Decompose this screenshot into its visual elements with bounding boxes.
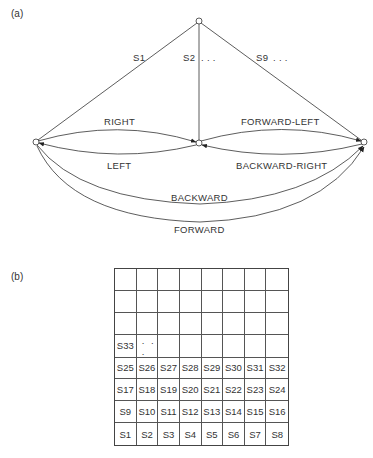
grid-cell: S28 xyxy=(180,358,202,380)
label-s9-dots: . . . xyxy=(273,52,288,63)
grid-cell: S4 xyxy=(180,423,202,445)
grid-cell xyxy=(266,291,288,313)
grid-cell: S17 xyxy=(115,379,137,401)
grid-cell xyxy=(180,269,202,291)
state-transition-diagram: S1 S2 . . . S9 . . . RIGHT LEFT FORWARD-… xyxy=(0,0,373,245)
label-backward: BACKWARD xyxy=(171,192,228,203)
label-backward-right: BACKWARD-RIGHT xyxy=(236,160,327,171)
grid-cell: S14 xyxy=(223,401,245,423)
label-right: RIGHT xyxy=(104,116,135,127)
label-forward-left: FORWARD-LEFT xyxy=(241,116,320,127)
grid-cell xyxy=(115,313,137,335)
grid-cell xyxy=(223,269,245,291)
grid-cell xyxy=(158,313,180,335)
edge-left xyxy=(39,143,196,154)
grid-cell xyxy=(202,291,224,313)
grid-cell: S7 xyxy=(245,423,267,445)
grid-cell: S31 xyxy=(245,358,267,380)
grid-cell xyxy=(180,313,202,335)
grid-cell xyxy=(202,269,224,291)
node-left xyxy=(33,139,39,145)
grid-cell: S20 xyxy=(180,379,202,401)
grid-cell: S3 xyxy=(158,423,180,445)
grid-cell: S15 xyxy=(245,401,267,423)
grid-cell: S23 xyxy=(245,379,267,401)
grid-cell: S22 xyxy=(223,379,245,401)
grid-cell xyxy=(158,291,180,313)
grid-cell: S21 xyxy=(202,379,224,401)
edge-right xyxy=(38,130,196,142)
grid-cell xyxy=(202,313,224,335)
grid-cell: S13 xyxy=(202,401,224,423)
label-s2-dots: . . . xyxy=(201,52,216,63)
grid-cell xyxy=(245,335,267,358)
grid-cell: S24 xyxy=(266,379,288,401)
grid-cell: S18 xyxy=(137,379,159,401)
state-grid: S33. . .S25S26S27S28S29S30S31S32S17S18S1… xyxy=(114,268,289,446)
grid-cell xyxy=(115,291,137,313)
grid-cell: S8 xyxy=(266,423,288,445)
grid-cell: S33 xyxy=(115,335,137,358)
grid-cell xyxy=(245,313,267,335)
label-left: LEFT xyxy=(107,160,131,171)
grid-cell: S1 xyxy=(115,423,137,445)
grid-cell xyxy=(115,269,137,291)
grid-cell xyxy=(266,313,288,335)
grid-cell: S16 xyxy=(266,401,288,423)
label-s2: S2 xyxy=(183,52,195,63)
label-s9: S9 xyxy=(256,52,268,63)
grid-cell xyxy=(158,335,180,358)
node-middle xyxy=(196,140,202,146)
label-forward: FORWARD xyxy=(174,224,225,235)
edge-forward xyxy=(37,146,364,222)
grid-cell xyxy=(223,335,245,358)
grid-cell xyxy=(202,335,224,358)
grid-cell xyxy=(158,269,180,291)
grid-cell: S27 xyxy=(158,358,180,380)
grid-cell: S12 xyxy=(180,401,202,423)
grid-cell: S25 xyxy=(115,358,137,380)
grid-cell: S26 xyxy=(137,358,159,380)
node-top xyxy=(196,18,202,24)
grid-cell xyxy=(223,313,245,335)
grid-cell: S5 xyxy=(202,423,224,445)
node-right xyxy=(361,139,367,145)
grid-cell xyxy=(137,269,159,291)
grid-cell: S32 xyxy=(266,358,288,380)
grid-cell: S2 xyxy=(137,423,159,445)
panel-label-b: (b) xyxy=(11,271,23,282)
grid-cell xyxy=(223,291,245,313)
grid-cell xyxy=(180,291,202,313)
label-s1: S1 xyxy=(133,52,145,63)
grid-cell xyxy=(266,335,288,358)
grid-cell: S30 xyxy=(223,358,245,380)
grid-cell xyxy=(180,335,202,358)
grid-cell: S10 xyxy=(137,401,159,423)
grid-cell: S9 xyxy=(115,401,137,423)
grid-cell xyxy=(137,313,159,335)
grid-cell xyxy=(245,269,267,291)
grid-cell: . . . xyxy=(137,335,159,358)
edge-backward-right xyxy=(202,144,362,154)
edge-forward-left xyxy=(201,130,361,142)
grid-cell: S29 xyxy=(202,358,224,380)
grid-cell xyxy=(245,291,267,313)
grid-cell xyxy=(266,269,288,291)
grid-cell xyxy=(137,291,159,313)
grid-cell: S11 xyxy=(158,401,180,423)
grid-cell: S19 xyxy=(158,379,180,401)
grid-cell: S6 xyxy=(223,423,245,445)
